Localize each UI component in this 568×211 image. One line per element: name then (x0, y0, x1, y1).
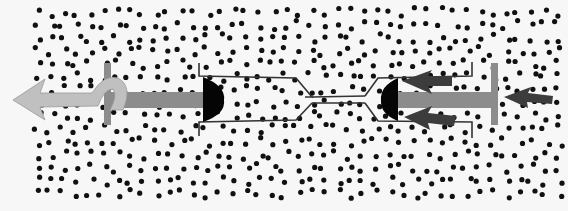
right-plunger-handle (491, 63, 498, 125)
right-plunger-rod (396, 92, 494, 108)
left-plunger-handle (104, 63, 111, 125)
syringe-diagram (0, 0, 568, 211)
